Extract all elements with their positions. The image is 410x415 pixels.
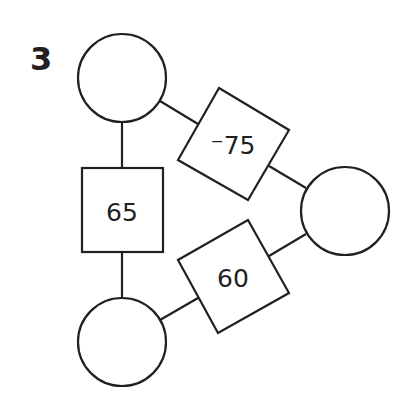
connector-box-75-to-right [269, 166, 306, 188]
circle-bottom[interactable] [78, 298, 166, 386]
connector-box60-to-bottom [160, 298, 198, 320]
box-top-bottom-value: 65 [106, 198, 138, 227]
circle-right[interactable] [301, 167, 389, 255]
arithmagon-diagram: 3 65 ⁻75 60 [0, 0, 410, 415]
problem-number: 3 [30, 40, 52, 78]
connector-top-to-box-75 [160, 101, 198, 124]
connector-right-to-box60 [269, 234, 306, 256]
box-top-right-value: ⁻75 [210, 131, 255, 160]
circle-top[interactable] [78, 34, 166, 122]
box-right-bottom-value: 60 [217, 264, 249, 293]
